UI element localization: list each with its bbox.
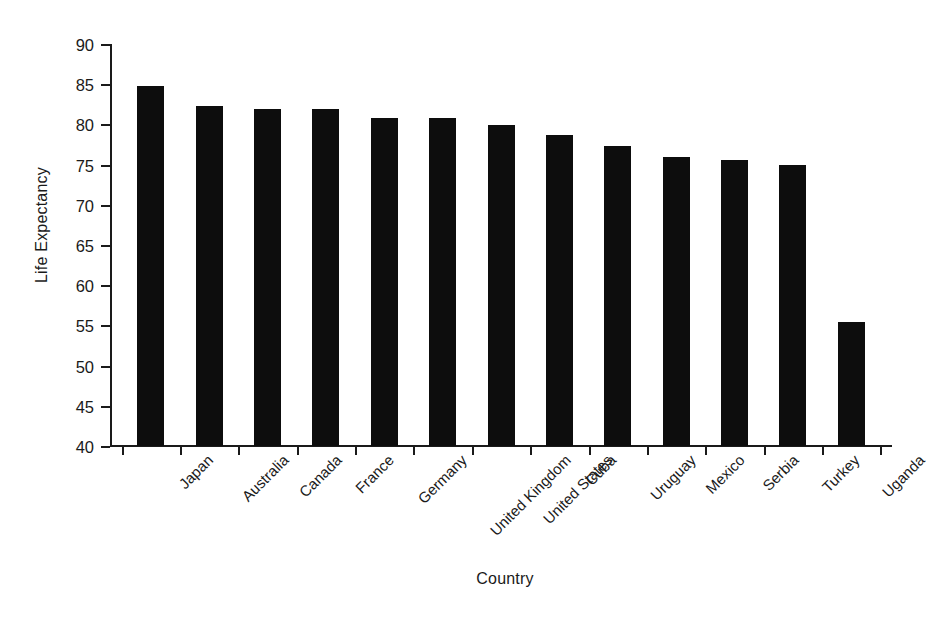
x-tick-label: Serbia <box>760 452 801 493</box>
y-axis-title: Life Expectancy <box>22 10 62 440</box>
y-tick-mark: 55 <box>101 325 110 327</box>
bar <box>488 125 515 446</box>
x-tick-label: Germany <box>415 452 469 506</box>
y-tick-mark: 75 <box>101 165 110 167</box>
y-tick-label: 65 <box>76 238 94 255</box>
x-tick-label: Japan <box>176 452 216 492</box>
bar <box>371 118 398 446</box>
x-tick-label: France <box>353 452 397 496</box>
x-tick-label: Australia <box>239 452 291 504</box>
y-tick-mark: 60 <box>101 285 110 287</box>
x-tick-label: Uruguay <box>647 452 698 503</box>
bar <box>838 322 865 446</box>
y-tick-label: 90 <box>76 37 94 54</box>
bar <box>312 109 339 446</box>
y-tick-label: 85 <box>76 77 94 94</box>
bar <box>721 160 748 446</box>
bar <box>137 86 164 446</box>
bar <box>254 109 281 446</box>
x-tick-label: Canada <box>296 452 344 500</box>
x-axis-tick-labels: JapanAustraliaCanadaFranceGermanyUnited … <box>110 452 900 562</box>
x-tick-label: Mexico <box>703 452 747 496</box>
y-tick-mark: 90 <box>101 44 110 46</box>
y-tick-mark: 80 <box>101 124 110 126</box>
y-tick-label: 60 <box>76 278 94 295</box>
y-tick-mark: 65 <box>101 245 110 247</box>
y-tick-mark: 45 <box>101 406 110 408</box>
y-tick-label: 50 <box>76 358 94 375</box>
bar <box>604 146 631 446</box>
y-tick-label: 45 <box>76 399 94 416</box>
y-tick-label: 80 <box>76 117 94 134</box>
y-tick-label: 40 <box>76 439 94 456</box>
y-tick-mark: 40 <box>101 446 110 448</box>
plot-area: 4045505560657075808590 <box>110 44 892 446</box>
y-tick-label: 70 <box>76 198 94 215</box>
bar <box>429 118 456 446</box>
bar <box>546 135 573 446</box>
y-tick-mark: 85 <box>101 84 110 86</box>
y-tick-mark: 50 <box>101 366 110 368</box>
bar <box>663 157 690 446</box>
bar <box>779 165 806 446</box>
x-tick-label: Cuba <box>583 452 619 488</box>
bar <box>196 106 223 446</box>
x-axis-title: Country <box>110 570 900 588</box>
y-tick-label: 75 <box>76 157 94 174</box>
y-tick-mark: 70 <box>101 205 110 207</box>
x-tick-label: Uganda <box>880 452 928 500</box>
y-tick-label: 55 <box>76 318 94 335</box>
x-tick-label: Turkey <box>819 452 862 495</box>
